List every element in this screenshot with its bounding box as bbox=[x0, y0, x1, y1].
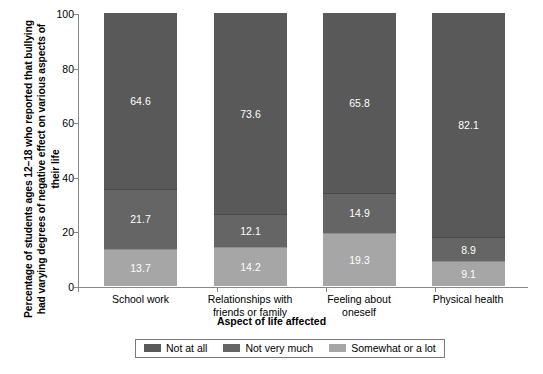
x-category-label-school-work: School work bbox=[82, 293, 200, 306]
legend-swatch-icon bbox=[223, 344, 240, 352]
segment-not-very-much: 14.9 bbox=[323, 193, 396, 234]
x-category-label-line: Physical health bbox=[409, 293, 527, 306]
segment-not-very-much: 21.7 bbox=[104, 189, 177, 248]
bar-feeling-about-oneself[interactable]: 65.8 14.9 19.3 bbox=[323, 13, 396, 286]
bar-relationships[interactable]: 73.6 12.1 14.2 bbox=[214, 13, 287, 286]
y-tick-label-80: 80 bbox=[44, 64, 74, 75]
legend-swatch-icon bbox=[329, 344, 346, 352]
stacked-bar-chart: Percentage of students ages 12–18 who re… bbox=[0, 0, 543, 374]
y-tick-mark-100 bbox=[74, 14, 78, 15]
segment-not-at-all: 73.6 bbox=[214, 13, 287, 214]
legend-item-not-very-much[interactable]: Not very much bbox=[223, 343, 313, 354]
bar-school-work[interactable]: 64.6 21.7 13.7 bbox=[104, 13, 177, 286]
y-tick-label-60: 60 bbox=[44, 118, 74, 129]
bar-physical-health[interactable]: 82.1 8.9 9.1 bbox=[432, 13, 505, 286]
y-tick-mark-20 bbox=[74, 232, 78, 233]
segment-not-very-much: 12.1 bbox=[214, 214, 287, 247]
x-tick-mark-1 bbox=[217, 288, 218, 292]
x-category-label-line: Feeling about bbox=[300, 293, 418, 306]
segment-somewhat-or-a-lot: 9.1 bbox=[432, 261, 505, 286]
legend: Not at all Not very much Somewhat or a l… bbox=[135, 339, 445, 358]
x-tick-mark-2 bbox=[326, 288, 327, 292]
y-tick-label-100: 100 bbox=[44, 9, 74, 20]
segment-not-at-all: 82.1 bbox=[432, 13, 505, 237]
y-tick-label-20: 20 bbox=[44, 227, 74, 238]
y-tick-mark-80 bbox=[74, 69, 78, 70]
x-axis-title: Aspect of life affected bbox=[0, 315, 543, 327]
y-tick-mark-60 bbox=[74, 123, 78, 124]
segment-somewhat-or-a-lot: 14.2 bbox=[214, 247, 287, 286]
y-tick-label-0: 0 bbox=[44, 282, 74, 293]
x-axis-line bbox=[78, 287, 528, 288]
segment-not-at-all: 65.8 bbox=[323, 13, 396, 193]
plot-area: 0 20 40 60 80 100 64.6 21.7 13.7 73.6 12… bbox=[78, 14, 528, 287]
y-tick-mark-40 bbox=[74, 178, 78, 179]
x-tick-mark-3 bbox=[435, 288, 436, 292]
segment-somewhat-or-a-lot: 13.7 bbox=[104, 249, 177, 286]
legend-label: Somewhat or a lot bbox=[351, 343, 436, 354]
legend-item-somewhat-or-a-lot[interactable]: Somewhat or a lot bbox=[329, 343, 436, 354]
legend-label: Not very much bbox=[245, 343, 313, 354]
legend-swatch-icon bbox=[144, 344, 161, 352]
x-tick-mark-0 bbox=[78, 288, 79, 292]
segment-not-at-all: 64.6 bbox=[104, 13, 177, 189]
y-axis-line bbox=[78, 14, 79, 288]
y-tick-label-40: 40 bbox=[44, 173, 74, 184]
segment-somewhat-or-a-lot: 19.3 bbox=[323, 233, 396, 286]
x-category-label-line: School work bbox=[82, 293, 200, 306]
legend-label: Not at all bbox=[166, 343, 207, 354]
segment-not-very-much: 8.9 bbox=[432, 237, 505, 261]
x-category-label-line: Relationships with bbox=[191, 293, 309, 306]
x-category-label-physical-health: Physical health bbox=[409, 293, 527, 306]
legend-item-not-at-all[interactable]: Not at all bbox=[144, 343, 207, 354]
